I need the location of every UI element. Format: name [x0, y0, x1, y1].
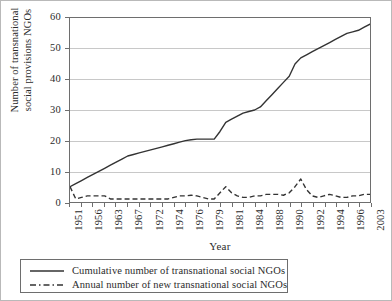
x-tick-mark [139, 203, 140, 207]
x-tick-mark [325, 203, 326, 207]
x-tick-mark [197, 203, 198, 207]
chart-figure: 60 50 40 30 20 10 0 Number of transnatio… [0, 0, 392, 301]
x-tick-mark [290, 203, 291, 207]
x-axis: 1951195619631967197219741976197919811984… [69, 209, 371, 241]
x-tick-label: 2003 [375, 209, 386, 231]
solid-line-icon [30, 265, 64, 277]
x-tick-mark [127, 203, 128, 207]
line-series-cumulative [70, 24, 370, 187]
chart-legend: Cumulative number of transnational socia… [20, 259, 288, 293]
x-tick-mark [266, 203, 267, 207]
legend-item-annual: Annual number of new transnational socia… [21, 278, 287, 291]
x-tick-mark [336, 203, 337, 207]
line-series-annual [70, 179, 370, 199]
x-tick-label: 1963 [113, 209, 124, 231]
x-tick-mark [243, 203, 244, 207]
x-tick-label: 1992 [315, 209, 326, 231]
y-axis-title: Number of transnational social provision… [9, 0, 39, 145]
y-tick-label: 10 [50, 167, 61, 178]
series-plot [70, 18, 370, 202]
x-tick-mark [278, 203, 279, 207]
x-tick-mark [115, 203, 116, 207]
x-tick-label: 1976 [194, 209, 205, 231]
y-tick-label: 50 [50, 43, 61, 54]
y-tick-label: 0 [56, 198, 61, 209]
x-tick-mark [220, 203, 221, 207]
x-tick-label: 1974 [174, 209, 185, 231]
x-tick-mark [92, 203, 93, 207]
x-tick-mark [104, 203, 105, 207]
x-tick-mark [371, 203, 372, 207]
x-tick-mark [162, 203, 163, 207]
x-tick-mark [348, 203, 349, 207]
legend-item-cumulative: Cumulative number of transnational socia… [21, 264, 287, 277]
x-tick-mark [255, 203, 256, 207]
x-tick-label: 1988 [274, 209, 285, 231]
x-tick-label: 1981 [234, 209, 245, 231]
x-tick-mark [232, 203, 233, 207]
x-tick-label: 1951 [73, 209, 84, 231]
y-axis-title-line2: social provisions NGOs [22, 0, 35, 145]
x-tick-mark [185, 203, 186, 207]
x-tick-mark [81, 203, 82, 207]
x-tick-mark [174, 203, 175, 207]
x-tick-mark [208, 203, 209, 207]
x-tick-label: 1990 [294, 209, 305, 231]
x-tick-mark [313, 203, 314, 207]
x-axis-title: Year [69, 240, 371, 252]
x-tick-mark [150, 203, 151, 207]
x-tick-label: 1972 [154, 209, 165, 231]
x-tick-label: 1994 [335, 209, 346, 231]
legend-label: Cumulative number of transnational socia… [72, 265, 285, 277]
dashed-line-icon [30, 279, 64, 291]
y-axis-title-line1: Number of transnational [9, 0, 22, 145]
x-tick-label: 1984 [254, 209, 265, 231]
x-tick-mark [359, 203, 360, 207]
y-tick-label: 20 [50, 136, 61, 147]
x-tick-label: 1996 [355, 209, 366, 231]
y-tick-label: 30 [50, 105, 61, 116]
x-tick-mark [301, 203, 302, 207]
x-tick-mark [69, 203, 70, 207]
x-tick-label: 1979 [214, 209, 225, 231]
plot-area [69, 17, 371, 203]
legend-label: Annual number of new transnational socia… [72, 279, 287, 291]
x-tick-label: 1956 [93, 209, 104, 231]
x-tick-label: 1967 [133, 209, 144, 231]
y-tick-label: 40 [50, 74, 61, 85]
y-tick-label: 60 [50, 12, 61, 23]
